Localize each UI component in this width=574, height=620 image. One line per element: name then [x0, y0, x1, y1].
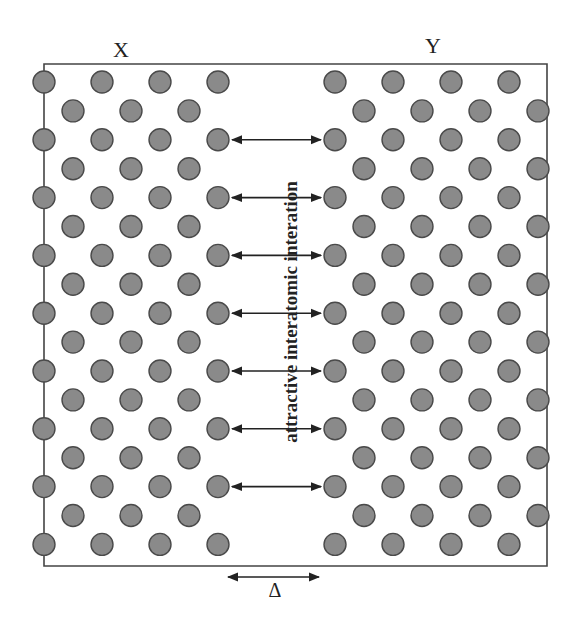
atom: [353, 389, 375, 411]
atom: [120, 216, 142, 238]
atom: [33, 187, 55, 209]
atom: [33, 244, 55, 266]
atom: [324, 244, 346, 266]
gap-delta-label: Δ: [269, 579, 282, 601]
atom: [440, 187, 462, 209]
atom: [324, 533, 346, 555]
atom: [91, 418, 113, 440]
atom: [91, 360, 113, 382]
atom: [62, 273, 84, 295]
atom: [382, 476, 404, 498]
atom: [207, 533, 229, 555]
atom: [149, 533, 171, 555]
atom: [62, 331, 84, 353]
atom: [207, 244, 229, 266]
atom: [324, 476, 346, 498]
atom: [498, 360, 520, 382]
atom: [120, 389, 142, 411]
atom: [440, 418, 462, 440]
atom: [324, 418, 346, 440]
atom: [411, 389, 433, 411]
atom: [91, 187, 113, 209]
atom: [353, 273, 375, 295]
atom: [469, 100, 491, 122]
atom: [33, 360, 55, 382]
atom: [498, 533, 520, 555]
atom: [469, 216, 491, 238]
atom: [498, 418, 520, 440]
atom: [382, 533, 404, 555]
atom: [149, 129, 171, 151]
atom: [469, 389, 491, 411]
lattice-block-y: [324, 71, 549, 555]
atom: [120, 158, 142, 180]
atom: [469, 331, 491, 353]
atom: [440, 533, 462, 555]
atom: [498, 476, 520, 498]
atom: [527, 100, 549, 122]
atom: [411, 158, 433, 180]
atom: [120, 100, 142, 122]
atom: [91, 244, 113, 266]
atom: [382, 187, 404, 209]
atom: [33, 129, 55, 151]
atom: [33, 418, 55, 440]
atom: [178, 158, 200, 180]
atom: [91, 302, 113, 324]
atom: [91, 476, 113, 498]
atom: [469, 447, 491, 469]
atom: [91, 533, 113, 555]
atom: [353, 331, 375, 353]
atom: [62, 389, 84, 411]
atom: [411, 100, 433, 122]
atom: [382, 244, 404, 266]
atom: [149, 360, 171, 382]
atom: [382, 418, 404, 440]
lattice-block-x: [33, 71, 229, 555]
atom: [91, 129, 113, 151]
block-x-label: X: [113, 37, 129, 62]
atom: [324, 129, 346, 151]
crystal-interface-diagram: attractive interatomic interation X Y Δ: [0, 0, 574, 620]
atom: [324, 71, 346, 93]
atom: [207, 418, 229, 440]
atom: [178, 505, 200, 527]
atom: [527, 158, 549, 180]
atom: [207, 129, 229, 151]
atom: [440, 71, 462, 93]
atom: [120, 447, 142, 469]
atom: [527, 273, 549, 295]
atom: [353, 447, 375, 469]
atom: [149, 187, 171, 209]
atom: [498, 302, 520, 324]
block-y-label: Y: [425, 33, 441, 58]
atom: [207, 476, 229, 498]
atom: [498, 71, 520, 93]
atom: [411, 447, 433, 469]
atom: [382, 129, 404, 151]
atom: [469, 273, 491, 295]
atom: [120, 331, 142, 353]
atom: [91, 71, 113, 93]
atom: [62, 158, 84, 180]
atom: [324, 360, 346, 382]
atom: [33, 476, 55, 498]
atom: [382, 302, 404, 324]
atom: [324, 187, 346, 209]
atom: [469, 158, 491, 180]
atom: [353, 216, 375, 238]
atom: [440, 129, 462, 151]
atom: [324, 302, 346, 324]
atom: [33, 533, 55, 555]
atom: [178, 331, 200, 353]
atom: [382, 71, 404, 93]
atom: [207, 302, 229, 324]
atom: [149, 302, 171, 324]
atom: [149, 418, 171, 440]
atom: [62, 100, 84, 122]
atom: [120, 505, 142, 527]
atom: [527, 331, 549, 353]
atom: [498, 244, 520, 266]
atom: [440, 302, 462, 324]
atom: [207, 71, 229, 93]
